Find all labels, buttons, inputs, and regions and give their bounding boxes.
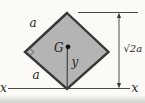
centroid-dot: [66, 44, 71, 49]
label-axis-x-left: x: [0, 81, 7, 95]
label-axis-y: y: [71, 55, 79, 69]
arrow-up-icon: [117, 13, 121, 19]
figure-canvas: a a G y x x √2a: [0, 0, 145, 103]
label-side-a-upper: a: [29, 16, 36, 30]
label-dimension-sqrt2a: √2a: [124, 43, 143, 54]
label-axis-x-right: x: [132, 81, 139, 95]
arrow-down-icon: [117, 83, 121, 89]
label-centroid-G: G: [54, 41, 64, 55]
label-side-a-lower: a: [32, 68, 39, 82]
geometry-figure: a a G y x x √2a: [0, 0, 145, 103]
